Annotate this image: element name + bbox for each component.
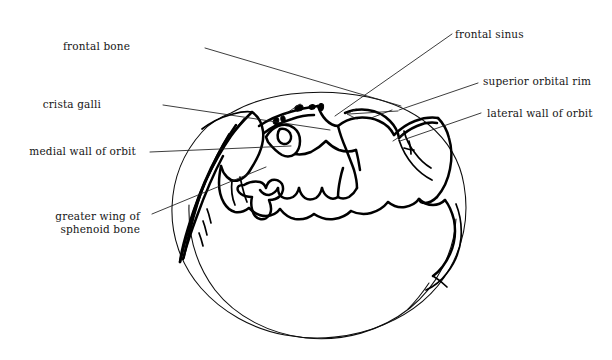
left-orbital-region — [180, 112, 252, 262]
leader-frontal-bone — [205, 48, 401, 106]
leader-superior-orbital-rim — [399, 83, 478, 110]
label-frontal-sinus: frontal sinus — [455, 28, 524, 41]
label-greater-wing-of-sphenoid-bone: greater wing of sphenoid bone — [24, 210, 140, 235]
label-superior-orbital-rim: superior orbital rim — [483, 75, 591, 88]
label-lateral-wall-of-orbit: lateral wall of orbit — [487, 107, 593, 120]
label-frontal-bone: frontal bone — [40, 40, 130, 53]
label-medial-wall-of-orbit: medial wall of orbit — [11, 145, 136, 158]
label-crista-galli: crista galli — [19, 98, 101, 111]
right-orbital-region — [394, 118, 461, 309]
leader-lines-group — [150, 34, 481, 214]
skull-line-drawing — [0, 0, 612, 360]
figure-canvas: frontal bone frontal sinus crista galli … — [0, 0, 612, 360]
